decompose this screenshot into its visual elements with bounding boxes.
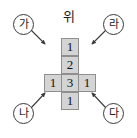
grid-cell-bottom: 1: [61, 92, 79, 110]
marker-na: 나: [13, 103, 34, 124]
marker-da: 다: [103, 103, 124, 124]
grid-cell-upper-middle: 2: [61, 56, 79, 74]
marker-ra: 라: [103, 14, 124, 35]
arrow-na: [31, 93, 45, 108]
figure-canvas: 위 1 2 1 3 1 1 가 라 나 다: [0, 0, 137, 138]
grid-cell-top: 1: [61, 38, 79, 56]
grid-cell-right: 1: [78, 74, 96, 92]
marker-ga: 가: [13, 14, 34, 35]
grid-cell-center: 3: [61, 74, 79, 92]
grid-cell-left: 1: [44, 74, 62, 92]
up-direction-label: 위: [50, 8, 87, 26]
cross-grid: 1 2 1 3 1 1: [44, 38, 96, 110]
arrow-ga: [31, 30, 45, 44]
